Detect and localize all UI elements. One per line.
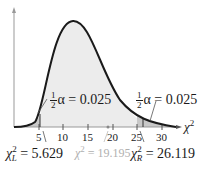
x-axis-label: χ2 [184, 118, 194, 135]
chi-test-value: χ2 = 19.195 [75, 144, 131, 161]
x-axis-sup: 2 [190, 118, 195, 128]
left-alpha-text: α = 0.025 [58, 92, 112, 107]
right-area-label: 12α = 0.025 [136, 90, 197, 110]
tick-label-20: 20 [107, 131, 118, 143]
test-statistic-point [107, 126, 110, 129]
half-fraction: 12 [50, 91, 57, 110]
tick-label-10: 10 [57, 131, 68, 143]
tick-label-15: 15 [82, 131, 93, 143]
chi-right-value: χ2R = 26.119 [131, 144, 195, 163]
half-fraction: 12 [136, 91, 143, 110]
x-axis-arrow [176, 125, 182, 129]
tick-label-30: 30 [156, 131, 167, 143]
left-area-label: 12α = 0.025 [50, 90, 111, 110]
y-axis-arrow [12, 7, 16, 13]
left-value-leader [43, 131, 46, 142]
right-alpha-text: α = 0.025 [144, 92, 198, 107]
chi-left-value: χ2L = 5.629 [6, 144, 63, 163]
tick-label-5: 5 [36, 131, 42, 143]
tick-label-25: 25 [131, 131, 142, 143]
